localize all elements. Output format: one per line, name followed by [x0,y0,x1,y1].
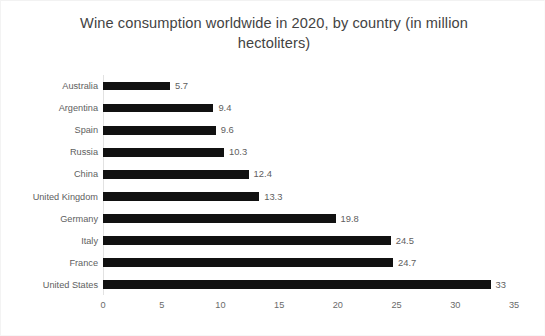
bar-row: Australia5.7 [1,75,545,97]
x-tick-label: 30 [450,300,460,310]
category-label: Argentina [59,97,98,119]
category-label: United States [43,274,98,296]
bar-value-label: 9.4 [218,97,231,119]
bar-row: Spain9.6 [1,119,545,141]
bar [103,192,259,201]
bar-row: United Kingdom13.3 [1,186,545,208]
category-label: China [74,163,98,185]
bar-value-label: 33 [496,274,506,296]
x-tick-label: 0 [100,300,105,310]
x-tick-label: 15 [274,300,284,310]
category-label: Australia [62,75,98,97]
chart-screenshot: Wine consumption worldwide in 2020, by c… [0,0,545,336]
bar-row: China12.4 [1,163,545,185]
bar [103,104,213,113]
category-label: United Kingdom [33,186,98,208]
bar-value-label: 9.6 [221,119,234,141]
category-label: France [69,252,98,274]
category-label: Russia [70,141,98,163]
plot-area: Australia5.7Argentina9.4Spain9.6Russia10… [1,1,545,336]
bar-value-label: 24.5 [396,230,414,252]
category-label: Spain [75,119,99,141]
bar [103,236,391,245]
bar-value-label: 13.3 [264,186,282,208]
bar-value-label: 19.8 [341,208,359,230]
bar [103,214,336,223]
bar-value-label: 10.3 [229,141,247,163]
bar-value-label: 24.7 [398,252,416,274]
bar-row: United States33 [1,274,545,296]
bar-row: France24.7 [1,252,545,274]
bar-value-label: 12.4 [254,163,272,185]
bar-row: Germany19.8 [1,208,545,230]
x-tick-label: 20 [333,300,343,310]
x-tick-label: 5 [159,300,164,310]
x-tick-label: 10 [215,300,225,310]
x-tick-label: 25 [391,300,401,310]
bar [103,82,170,91]
bar-row: Argentina9.4 [1,97,545,119]
bar-value-label: 5.7 [175,75,188,97]
bar [103,258,393,267]
x-tick-label: 35 [509,300,519,310]
category-label: Italy [81,230,98,252]
bar [103,170,249,179]
category-label: Germany [60,208,98,230]
bar [103,148,224,157]
bar [103,280,491,289]
bar-row: Russia10.3 [1,141,545,163]
bar [103,126,216,135]
bar-row: Italy24.5 [1,230,545,252]
